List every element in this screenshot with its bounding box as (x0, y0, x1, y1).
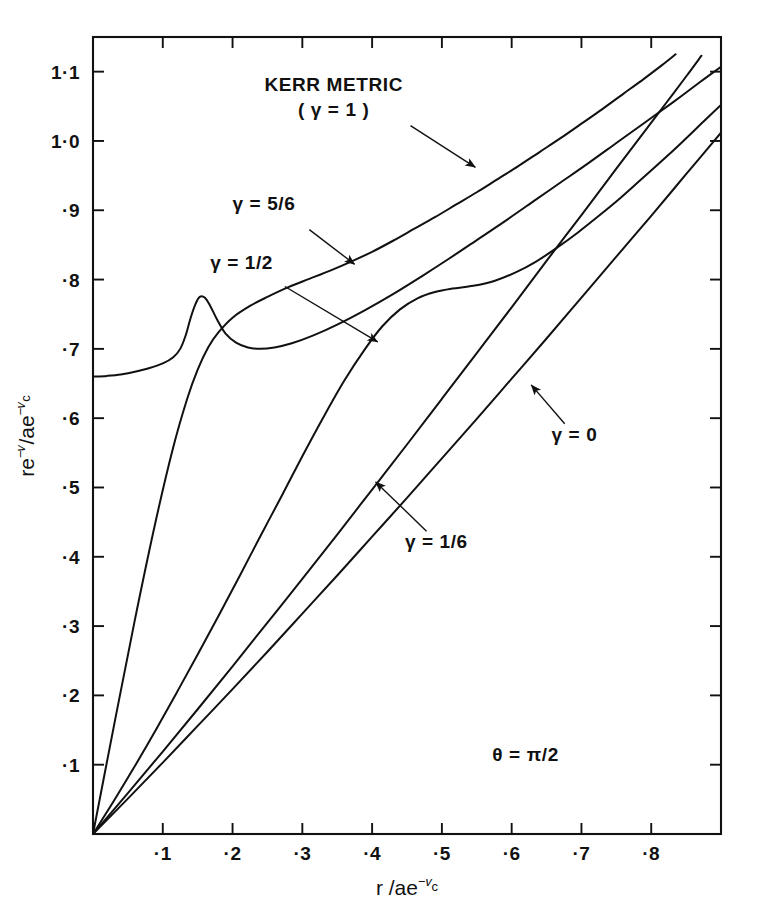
x-tick-label-0: ·1 (154, 843, 172, 864)
y-tick-label-2: ·3 (62, 616, 80, 637)
callout-leader-line (285, 286, 378, 341)
curve-callouts: KERR METRIC( γ = 1 )γ = 5/6γ = 1/2γ = 1/… (210, 74, 597, 552)
x-tick-label-1: ·2 (224, 843, 242, 864)
y-tick-label-3: ·4 (62, 547, 80, 568)
curve-gamma-1 (93, 67, 721, 377)
callout-label-line2: ( γ = 1 ) (298, 99, 369, 120)
callout-1-2: γ = 1/2 (210, 252, 377, 342)
x-tick-label-2: ·3 (293, 843, 311, 864)
x-tick-label-7: ·8 (642, 843, 660, 864)
callout-label-line1: KERR METRIC (264, 74, 403, 95)
callout-leader-line (309, 230, 354, 265)
callout-leader-line (410, 126, 475, 168)
y-axis-tick-labels: ·1·2·3·4·5·6·7·8·91·01·1 (51, 62, 80, 776)
x-tick-label-6: ·7 (572, 843, 590, 864)
y-tick-label-9: 1·0 (51, 131, 80, 152)
curve-gamma-0 (93, 133, 721, 834)
chart-annotations: θ = π/2 (492, 744, 559, 765)
y-tick-label-10: 1·1 (51, 62, 80, 83)
curve-gamma-1-6 (93, 56, 701, 834)
svg-text:re−𝜈/ae−𝜈c: re−𝜈/ae−𝜈c (13, 395, 38, 477)
y-tick-label-7: ·8 (62, 270, 80, 291)
y-tick-label-4: ·5 (62, 477, 80, 498)
figure-container: ·1·2·3·4·5·6·7·8 ·1·2·3·4·5·6·7·8·91·01·… (0, 0, 759, 921)
annotation-theta: θ = π/2 (492, 744, 559, 765)
y-axis-title: re−𝜈/ae−𝜈c (13, 395, 38, 477)
data-curves (93, 54, 721, 834)
callout-label: γ = 1/6 (405, 531, 468, 552)
callout-label: γ = 5/6 (233, 193, 296, 214)
curve-gamma-1-2 (93, 105, 721, 834)
callout-1: KERR METRIC( γ = 1 ) (264, 74, 475, 167)
x-tick-label-5: ·6 (503, 843, 521, 864)
svg-text:r /ae−𝜈c: r /ae−𝜈c (376, 874, 439, 899)
callout-leader-line (531, 385, 564, 424)
x-axis-tick-labels: ·1·2·3·4·5·6·7·8 (154, 843, 660, 864)
y-tick-label-1: ·2 (62, 685, 80, 706)
callout-label: γ = 0 (552, 424, 598, 445)
x-tick-label-4: ·5 (433, 843, 451, 864)
y-tick-label-8: ·9 (62, 200, 80, 221)
y-tick-label-0: ·1 (62, 755, 80, 776)
scientific-line-chart: ·1·2·3·4·5·6·7·8 ·1·2·3·4·5·6·7·8·91·01·… (0, 0, 759, 921)
y-tick-label-6: ·7 (62, 339, 80, 360)
y-tick-label-5: ·6 (62, 408, 80, 429)
x-axis-title: r /ae−𝜈c (376, 874, 439, 899)
x-tick-label-3: ·4 (363, 843, 381, 864)
callout-0: γ = 0 (531, 385, 597, 445)
callout-label: γ = 1/2 (210, 252, 273, 273)
